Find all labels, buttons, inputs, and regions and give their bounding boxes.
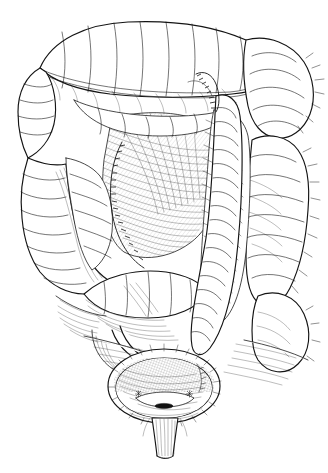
colon-bladder-illustration bbox=[0, 0, 328, 473]
internal-urethral-orifice bbox=[155, 403, 173, 408]
anatomical-figure-plate bbox=[0, 0, 328, 473]
figure-caption bbox=[0, 465, 328, 473]
